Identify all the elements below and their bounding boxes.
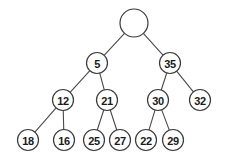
tree-node-n5[interactable]: 5 xyxy=(87,53,108,74)
tree-node-n30[interactable]: 30 xyxy=(148,90,169,111)
tree-edge-n21-to-n25 xyxy=(97,110,104,130)
node-label-n12: 12 xyxy=(57,95,69,107)
tree-node-n16[interactable]: 16 xyxy=(54,130,75,151)
node-label-n29: 29 xyxy=(167,135,179,147)
tree-node-n18[interactable]: 18 xyxy=(18,130,39,151)
binary-tree-figure: 53512213032181625272229 xyxy=(0,0,229,162)
tree-edge-n35-to-n30 xyxy=(161,73,167,90)
node-label-n35: 35 xyxy=(164,58,176,70)
tree-edge-root-to-n5 xyxy=(104,33,124,55)
tree-node-root[interactable] xyxy=(120,9,148,37)
tree-edge-n12-to-n18 xyxy=(35,108,56,132)
tree-canvas: 53512213032181625272229 xyxy=(0,0,229,162)
tree-node-n22[interactable]: 22 xyxy=(136,130,157,151)
edges-layer xyxy=(35,33,193,132)
node-label-n21: 21 xyxy=(101,95,113,107)
tree-edge-n30-to-n29 xyxy=(162,110,170,130)
node-label-n30: 30 xyxy=(152,95,164,107)
node-label-n25: 25 xyxy=(88,135,100,147)
node-label-n22: 22 xyxy=(140,135,152,147)
node-label-n32: 32 xyxy=(194,95,206,107)
tree-edge-n5-to-n21 xyxy=(100,73,105,90)
tree-edge-n30-to-n22 xyxy=(149,110,155,130)
tree-node-n32[interactable]: 32 xyxy=(190,90,211,111)
tree-edge-n5-to-n12 xyxy=(70,71,90,93)
node-label-n18: 18 xyxy=(22,135,34,147)
nodes-layer: 53512213032181625272229 xyxy=(18,9,211,151)
tree-node-n27[interactable]: 27 xyxy=(110,130,131,151)
tree-node-n21[interactable]: 21 xyxy=(97,90,118,111)
tree-edge-n35-to-n32 xyxy=(177,71,194,92)
node-circle-root xyxy=(120,9,148,37)
node-label-n27: 27 xyxy=(114,135,126,147)
node-label-n16: 16 xyxy=(58,135,70,147)
tree-edge-root-to-n35 xyxy=(143,33,163,55)
node-label-n5: 5 xyxy=(94,58,100,70)
tree-edge-n21-to-n27 xyxy=(110,110,117,130)
tree-node-n12[interactable]: 12 xyxy=(53,90,74,111)
tree-node-n29[interactable]: 29 xyxy=(163,130,184,151)
tree-node-n25[interactable]: 25 xyxy=(84,130,105,151)
tree-node-n35[interactable]: 35 xyxy=(160,53,181,74)
